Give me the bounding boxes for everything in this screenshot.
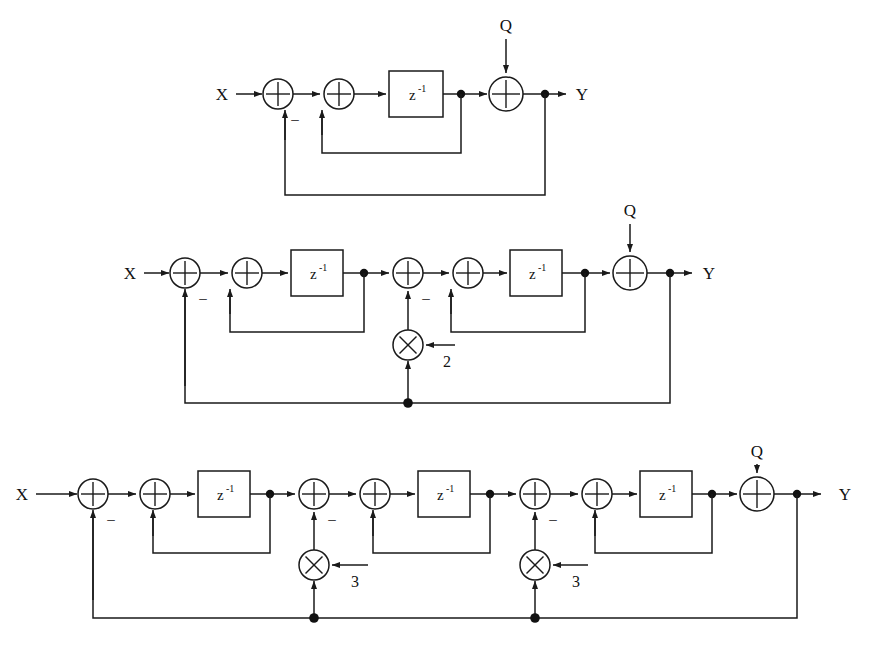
delay-label-base-row1: z <box>409 87 416 103</box>
adder-3-row3 <box>299 479 329 509</box>
delay3-label-exp-row3: -1 <box>668 483 676 494</box>
multiplier-1-row3 <box>299 550 329 580</box>
output-label-row1: Y <box>576 85 588 104</box>
junction-node-rail1-row3 <box>309 613 319 623</box>
coefficient-1-row2: 2 <box>443 353 451 370</box>
adder-6-row3 <box>582 479 612 509</box>
input-label-row1: X <box>216 85 228 104</box>
noise-label-row1: Q <box>500 16 512 35</box>
delay2-label-base-row2: z <box>529 266 536 282</box>
minus-sign-3-row3: – <box>548 511 557 527</box>
adder-q-row3 <box>740 477 774 511</box>
coefficient-1-row3: 3 <box>351 573 359 590</box>
adder-1-row2 <box>170 258 200 288</box>
junction-node-rail2-row3 <box>530 613 540 623</box>
multiplier-1-row2 <box>393 330 423 360</box>
diagram-first-order: X – z -1 Q <box>216 16 588 195</box>
adder-4-row2 <box>453 258 483 288</box>
delay-block-1-row2: z -1 <box>291 250 343 296</box>
adder-q-row1 <box>489 77 523 111</box>
adder-2-row3 <box>140 479 170 509</box>
output-label-row2: Y <box>703 264 715 283</box>
adder-3-row2 <box>393 258 423 288</box>
adder-2-row2 <box>232 258 262 288</box>
junction-node-rail-row2 <box>403 398 413 408</box>
adder-2-row1 <box>324 79 354 109</box>
adder-1-row1 <box>263 79 293 109</box>
diagram-second-order: X – z -1 – <box>124 201 715 408</box>
adder-q-row2 <box>613 256 647 290</box>
noise-label-row3: Q <box>751 442 763 461</box>
minus-sign-2-row2: – <box>421 290 430 306</box>
input-label-row3: X <box>16 485 28 504</box>
coefficient-2-row3: 3 <box>572 573 580 590</box>
delay-block-3-row3: z -1 <box>640 471 692 517</box>
delay2-label-exp-row3: -1 <box>446 483 454 494</box>
figure-canvas: X – z -1 Q <box>0 0 876 657</box>
output-label-row3: Y <box>839 485 851 504</box>
delay-label-exp-row1: -1 <box>418 83 426 94</box>
delay1-label-base-row2: z <box>310 266 317 282</box>
delay-block-row1: z -1 <box>389 71 443 117</box>
minus-sign-1-row2: – <box>198 290 207 306</box>
minus-sign-2-row3: – <box>327 511 336 527</box>
minus-sign-1-row1: – <box>290 111 299 127</box>
delay2-label-base-row3: z <box>437 487 444 503</box>
diagram-third-order: X – z -1 – <box>16 442 851 623</box>
delay3-label-base-row3: z <box>659 487 666 503</box>
delay1-label-exp-row2: -1 <box>319 262 327 273</box>
minus-sign-1-row3: – <box>106 511 115 527</box>
delay1-label-base-row3: z <box>217 487 224 503</box>
adder-4-row3 <box>360 479 390 509</box>
adder-5-row3 <box>520 479 550 509</box>
delay1-label-exp-row3: -1 <box>226 483 234 494</box>
adder-1-row3 <box>78 479 108 509</box>
delay-block-2-row2: z -1 <box>510 250 562 296</box>
input-label-row2: X <box>124 264 136 283</box>
noise-label-row2: Q <box>624 201 636 220</box>
delay-block-2-row3: z -1 <box>418 471 470 517</box>
block-diagram-svg: X – z -1 Q <box>0 0 876 657</box>
delay2-label-exp-row2: -1 <box>538 262 546 273</box>
multiplier-2-row3 <box>520 550 550 580</box>
delay-block-1-row3: z -1 <box>198 471 250 517</box>
